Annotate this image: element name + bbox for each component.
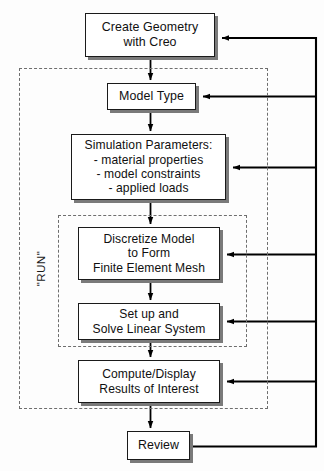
node-simulation-parameters[interactable]: Simulation Parameters: - material proper… [71, 134, 226, 200]
node-discretize-model-label: Discretize Model to Form Finite Element … [93, 232, 205, 275]
node-compute-display-results[interactable]: Compute/Display Results of Interest [78, 360, 220, 403]
node-compute-display-results-label: Compute/Display Results of Interest [99, 367, 198, 396]
node-review[interactable]: Review [127, 431, 190, 460]
run-group-label: "RUN" [34, 225, 47, 313]
node-model-type-label: Model Type [119, 89, 184, 104]
node-create-geometry[interactable]: Create Geometry with Creo [85, 13, 215, 57]
node-discretize-model[interactable]: Discretize Model to Form Finite Element … [78, 227, 220, 280]
node-review-label: Review [138, 438, 179, 453]
node-solve-linear-system-label: Set up and Solve Linear System [93, 307, 206, 336]
node-model-type[interactable]: Model Type [107, 83, 196, 110]
node-create-geometry-label: Create Geometry with Creo [102, 20, 199, 49]
node-simulation-parameters-label: Simulation Parameters: - material proper… [85, 138, 213, 195]
node-solve-linear-system[interactable]: Set up and Solve Linear System [78, 303, 220, 340]
flowchart-canvas: "RUN" Create Geometry with Creo Model Ty… [0, 0, 324, 471]
